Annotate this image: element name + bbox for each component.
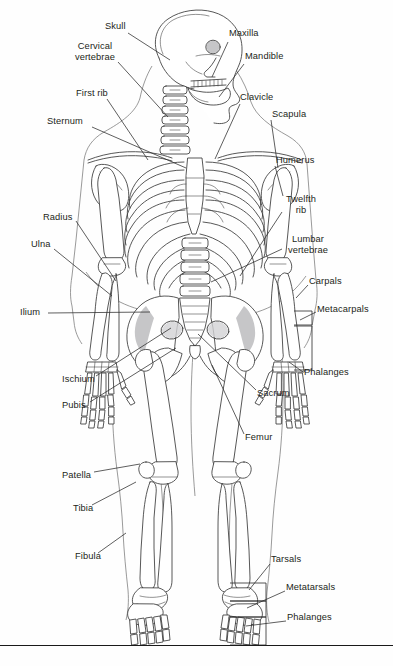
- label-ilium: Ilium: [20, 307, 40, 318]
- left-carpals: [86, 362, 118, 372]
- label-lumbar-vertebrae: Lumbar vertebrae: [276, 234, 340, 255]
- label-phalanges-hand: Phalanges: [304, 367, 349, 378]
- label-femur: Femur: [245, 432, 272, 443]
- label-phalanges-foot: Phalanges: [287, 612, 332, 623]
- leader-first-rib: [107, 99, 148, 160]
- lower-leg-group: [140, 482, 250, 592]
- left-hand-group: [81, 362, 135, 428]
- label-radius: Radius: [43, 212, 73, 223]
- label-clavicle: Clavicle: [240, 92, 273, 103]
- label-sacrum: Sacrum: [257, 388, 290, 399]
- page-bottom-rule: [0, 645, 393, 646]
- sacrum-group: [180, 298, 210, 346]
- left-foot-group: [128, 588, 170, 645]
- label-scapula: Scapula: [272, 109, 306, 120]
- label-tibia: Tibia: [73, 503, 93, 514]
- right-carpals: [272, 362, 304, 372]
- lumbar-vertebrae-group: [180, 238, 210, 296]
- leader-tarsals: [249, 564, 270, 590]
- diagram-canvas: .b{fill:#ffffff;stroke:#3a3a3a;stroke-wi…: [0, 0, 393, 666]
- cervical-vertebrae-group: [160, 86, 190, 154]
- femur-group: [135, 349, 254, 484]
- label-sternum: Sternum: [47, 116, 83, 127]
- label-tarsals: Tarsals: [271, 554, 301, 565]
- label-metatarsals: Metatarsals: [286, 582, 335, 593]
- leader-fibula: [98, 533, 126, 553]
- skeleton-illustration: .b{fill:#ffffff;stroke:#3a3a3a;stroke-wi…: [0, 0, 393, 666]
- label-skull: Skull: [105, 21, 126, 32]
- label-patella: Patella: [62, 470, 91, 481]
- label-maxilla: Maxilla: [229, 28, 259, 39]
- sternum-group: [186, 158, 204, 234]
- label-humerus: Humerus: [276, 155, 314, 166]
- leader-tibia: [92, 482, 136, 505]
- leader-carpals: [296, 285, 308, 298]
- label-mandible: Mandible: [245, 51, 284, 62]
- label-ulna: Ulna: [31, 239, 51, 250]
- label-pubis: Pubis: [62, 400, 86, 411]
- right-foot-group: [220, 588, 262, 645]
- label-metacarpals: Metacarpals: [317, 304, 369, 315]
- label-ischium: Ischium: [62, 374, 95, 385]
- label-twelfth-rib: Twelfth rib: [277, 194, 325, 215]
- label-carpals: Carpals: [309, 276, 342, 287]
- label-fibula: Fibula: [75, 551, 101, 562]
- leader-cervical-vertebrae: [118, 62, 168, 117]
- label-first-rib: First rib: [76, 88, 108, 99]
- label-cervical-vertebrae: Cervical vertebrae: [64, 41, 126, 62]
